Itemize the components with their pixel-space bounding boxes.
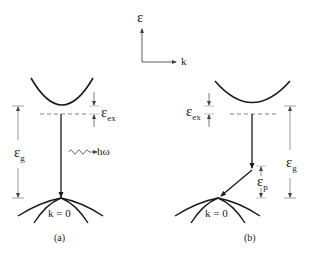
conduction-band-b [215,81,290,103]
k-zero-label-a: k = 0 [48,208,71,219]
phonon-transition-arrow-b [221,170,252,196]
k-zero-label-b: k = 0 [205,208,228,219]
gap-subscript: g [20,153,25,163]
gap-energy-label-a: εg [14,145,25,160]
diagram-canvas [0,0,311,256]
panel-b [175,81,296,223]
exciton-energy-label-b: εex [186,104,201,119]
phonon-subscript: p [263,182,268,192]
panel-a [12,78,103,223]
exciton-subscript: ex [107,113,116,123]
phonon-energy-label-b: εp [257,174,268,189]
caption-b: (b) [244,233,256,243]
caption-a: (a) [54,233,65,243]
axes [142,29,176,62]
gap-subscript: g [292,163,297,173]
photon-wave-icon [69,150,89,154]
energy-axis-label: ε [137,10,143,25]
photon-energy-label: hω [97,146,110,157]
gap-energy-label-b: εg [286,155,297,170]
exciton-subscript: ex [192,112,201,122]
exciton-energy-label-a: εex [101,105,116,120]
conduction-band-a [31,78,93,105]
k-axis-label: k [181,56,187,67]
